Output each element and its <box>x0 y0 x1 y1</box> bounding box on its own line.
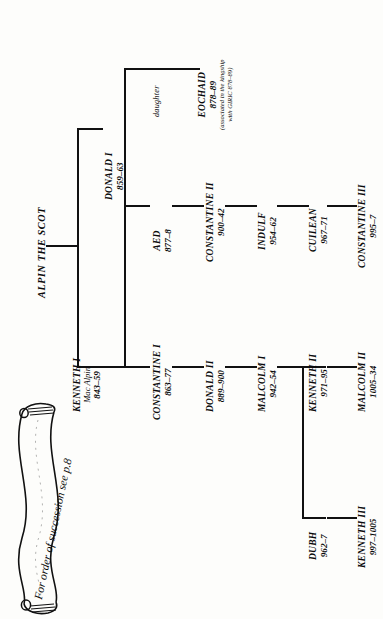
edge-malcolm-i-stem <box>277 366 303 368</box>
node-donald-ii: DONALD II 889–900 <box>205 360 226 412</box>
node-name: MALCOLM II <box>357 352 368 412</box>
edge-malcolm-i-bracket <box>302 366 304 518</box>
node-constantine-i: CONSTANTINE I 863–77 <box>152 344 173 420</box>
edge-kenneth-i-stem <box>100 366 126 368</box>
node-dates: 859–63 <box>115 152 125 200</box>
node-name: CUILEAN <box>308 208 319 252</box>
node-dates: 878–89 <box>208 59 218 130</box>
node-constantine-iii: CONSTANTINE III 995–7 <box>357 184 378 268</box>
node-dates: 843–59 <box>92 358 102 412</box>
node-malcolm-ii: MALCOLM II 1005–34 <box>357 352 378 412</box>
node-note-line-2: with GIRIC 878–89) <box>226 59 234 130</box>
edge-kenneth-i-constantine-i <box>124 366 150 368</box>
node-name: KENNETH II <box>308 354 319 412</box>
node-dates: 942–54 <box>268 356 278 412</box>
node-name: ALPIN THE SCOT <box>36 207 47 298</box>
edge-alpin-stem <box>46 245 78 247</box>
node-name: DONALD I <box>104 152 115 200</box>
node-name: daughter <box>152 85 161 117</box>
node-name: CONSTANTINE II <box>205 182 216 262</box>
node-kenneth-iii: KENNETH III 997–1005 <box>357 506 378 568</box>
edge-daughter-eochaid <box>172 68 200 70</box>
node-name: KENNETH III <box>357 506 368 568</box>
node-constantine-ii: CONSTANTINE II 900–42 <box>205 182 226 262</box>
edge-dubh-kenneth-iii <box>327 517 357 519</box>
node-dubh: DUBH 962–7 <box>308 532 329 560</box>
node-dates: 889–900 <box>216 360 226 412</box>
edge-alpin-donald-i <box>77 128 103 130</box>
node-dates: 954–62 <box>268 212 278 250</box>
node-dates: 877–8 <box>163 229 173 252</box>
node-dates: 900–42 <box>216 182 226 262</box>
node-name: CONSTANTINE I <box>152 344 163 420</box>
node-name: INDULF <box>257 212 268 250</box>
node-dates: 967–71 <box>319 208 329 252</box>
edge-constantine-i-donald-ii <box>172 366 204 368</box>
node-dates: 1005–34 <box>368 352 378 412</box>
node-indulf: INDULF 954–62 <box>257 212 278 250</box>
node-kenneth-ii: KENNETH II 971–95 <box>308 354 329 412</box>
succession-note-banner: For order of succession see p.8 <box>2 398 80 618</box>
node-aed: AED 877–8 <box>152 229 173 252</box>
edge-constantine-ii-indulf <box>225 205 257 207</box>
node-name: DUBH <box>308 532 319 560</box>
genealogy-chart: ALPIN THE SCOT DONALD I 859–63 KENNETH I… <box>0 0 383 619</box>
edge-kenneth-i-aed <box>124 205 150 207</box>
node-eochaid: EOCHAID 878–89 (associated in the kingsh… <box>197 59 234 130</box>
edge-donald-ii-malcolm-i <box>225 366 257 368</box>
edge-aed-constantine-ii <box>172 205 204 207</box>
edge-malcolm-i-dubh <box>302 517 326 519</box>
node-dates: 971–95 <box>319 354 329 412</box>
node-dates: 962–7 <box>319 532 329 560</box>
edge-cuilean-constantine-iii <box>327 205 357 207</box>
node-alpin-the-scot: ALPIN THE SCOT <box>36 207 47 298</box>
node-dates: 863–77 <box>163 344 173 420</box>
edge-kenneth-ii-malcolm-ii <box>327 366 357 368</box>
edge-root-bracket <box>77 128 79 368</box>
node-donald-i: DONALD I 859–63 <box>104 152 125 200</box>
node-name: AED <box>152 229 163 252</box>
node-malcolm-i: MALCOLM I 942–54 <box>257 356 278 412</box>
node-name: EOCHAID <box>197 59 208 130</box>
node-daughter: daughter <box>152 85 161 117</box>
node-name: DONALD II <box>205 360 216 412</box>
node-epithet: Mac Alpin <box>83 358 93 412</box>
node-dates: 995–7 <box>368 184 378 268</box>
node-name: MALCOLM I <box>257 356 268 412</box>
edge-kenneth-i-daughter <box>124 68 172 70</box>
edge-indulf-cuilean <box>277 205 309 207</box>
edge-kenneth-i-bracket <box>124 68 126 368</box>
node-name: CONSTANTINE III <box>357 184 368 268</box>
node-note-line-1: (associated in the kingship <box>218 59 226 130</box>
node-cuilean: CUILEAN 967–71 <box>308 208 329 252</box>
node-dates: 997–1005 <box>368 506 378 568</box>
